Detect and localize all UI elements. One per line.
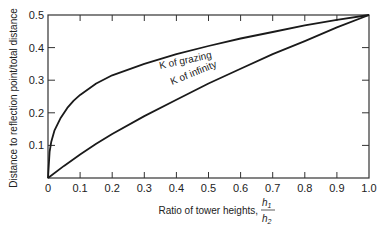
y-tick-label: 0.4 xyxy=(29,42,44,54)
x-axis-fraction: h1 h2 xyxy=(261,197,275,225)
y-tick-label: 0.2 xyxy=(29,107,44,119)
plot-frame xyxy=(48,15,369,178)
x-tick-label: 0.6 xyxy=(233,182,248,194)
x-tick-label: 0.2 xyxy=(105,182,120,194)
x-tick-label: 0.4 xyxy=(169,182,184,194)
y-tick-label: 0.1 xyxy=(29,139,44,151)
fraction-numerator: h1 xyxy=(262,197,272,209)
y-tick-label: 0.3 xyxy=(29,74,44,86)
x-tick-label: 1.0 xyxy=(361,182,376,194)
x-tick-label: 0 xyxy=(45,182,51,194)
x-tick-label: 0.8 xyxy=(297,182,312,194)
x-tick-label: 0.3 xyxy=(137,182,152,194)
y-axis-ticks: 0.10.20.30.40.5 xyxy=(29,9,369,151)
x-tick-label: 0.1 xyxy=(72,182,87,194)
x-tick-label: 0.9 xyxy=(329,182,344,194)
plot-border xyxy=(48,15,369,178)
y-axis-title: Distance to reflection point/total dista… xyxy=(8,8,19,188)
x-tick-label: 0.7 xyxy=(265,182,280,194)
curves xyxy=(48,15,369,178)
curve-k-infinity xyxy=(48,15,369,178)
y-tick-label: 0.5 xyxy=(29,9,44,21)
chart: 00.10.20.30.40.50.60.70.80.91.0 0.10.20.… xyxy=(0,0,388,236)
curve-k-grazing xyxy=(48,15,369,178)
x-axis-title: Ratio of tower heights, xyxy=(159,205,259,216)
fraction-denominator: h2 xyxy=(262,213,272,225)
x-tick-label: 0.5 xyxy=(201,182,216,194)
x-axis-ticks: 00.10.20.30.40.50.60.70.80.91.0 xyxy=(45,15,377,194)
